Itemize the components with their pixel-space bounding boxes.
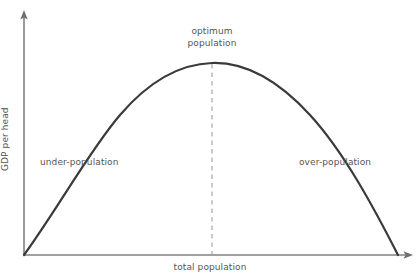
under-population-annotation: under-population [40, 157, 119, 168]
optimum-population-annotation-line1: optimum [0, 25, 420, 37]
optimum-population-annotation-line2: population [0, 37, 420, 49]
x-axis [24, 251, 413, 258]
over-population-annotation: over-population [299, 157, 371, 168]
y-axis-label: GDP per head [0, 97, 20, 181]
optimum-population-chart: GDP per head total population optimum po… [0, 0, 420, 279]
x-axis-label: total population [0, 262, 420, 273]
optimum-population-annotation: optimum population [0, 25, 420, 49]
